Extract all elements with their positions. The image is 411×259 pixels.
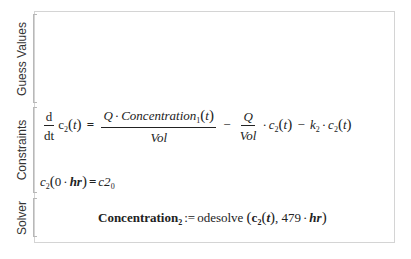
region-label-constraints: Constraints [15, 120, 29, 181]
region-guess-values[interactable]: Guess Values [24, 14, 36, 103]
region-label-guess-values: Guess Values [15, 22, 29, 96]
region-bracket [33, 14, 37, 103]
region-solver[interactable]: Solver [24, 198, 36, 237]
region-label-solver: Solver [15, 200, 29, 234]
region-constraints[interactable]: Constraints [24, 107, 36, 193]
region-bracket [33, 198, 37, 237]
odesolve-assignment[interactable]: Concentration2:=odesolve (c2(t), 479·hr) [98, 210, 327, 227]
outflow-fraction: Q Vol [238, 110, 259, 142]
initial-condition-equation[interactable]: c2(0·hr)=c20 [40, 174, 115, 191]
region-bracket [33, 107, 37, 193]
derivative-operator: d dt [42, 110, 56, 142]
inflow-fraction: Q·Concentration1(t) Vol [101, 108, 215, 144]
ode-constraint-equation[interactable]: d dt c2(t) = Q·Concentration1(t) Vol − Q… [40, 108, 352, 144]
